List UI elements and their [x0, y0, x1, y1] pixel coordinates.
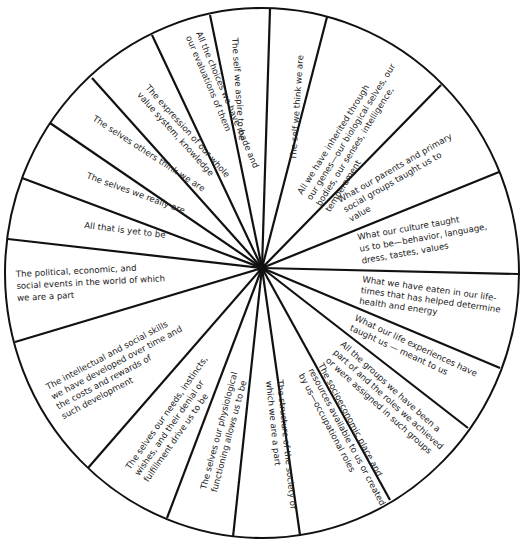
self-concept-wheel: The self we aspire to be The self we thi…: [0, 0, 523, 545]
wheel-hub: [257, 263, 267, 273]
